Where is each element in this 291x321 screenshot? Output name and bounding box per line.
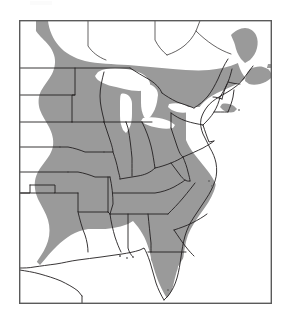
- barrier-island-speck-1: [119, 255, 121, 257]
- florida-keys-speck: [167, 289, 169, 291]
- nantucket-speck: [238, 109, 240, 111]
- barrier-island-speck-2: [126, 257, 128, 259]
- outer-banks-speck-1: [208, 180, 210, 182]
- outer-banks-speck-2: [211, 185, 213, 187]
- range-map-svg: [0, 0, 291, 321]
- range-map-figure: Species distribution range map of the ea…: [0, 0, 291, 321]
- barrier-island-speck-3: [132, 256, 134, 258]
